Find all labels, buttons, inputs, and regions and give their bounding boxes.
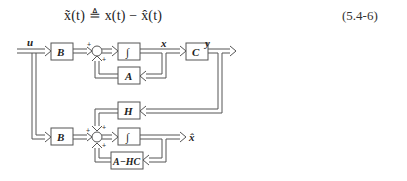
observer-b-label: B [56, 131, 64, 143]
plant-sum-sign-feedback: + [102, 56, 106, 63]
observer-h-label: H [123, 105, 133, 117]
observer-sum-sign-feedback: + [102, 142, 106, 149]
plant-a-label: A [124, 70, 132, 82]
signal-xhat-label: x̂ [188, 131, 195, 143]
input-u-line [17, 46, 51, 56]
observer-a-minus-hc-label: A−HC [112, 156, 141, 167]
input-u-branch [32, 53, 51, 142]
plant-b-label: B [56, 46, 64, 58]
plant-sum-sign-input: + [87, 41, 91, 48]
signal-y-label: y [203, 37, 210, 49]
observer-sum-sign-h: + [102, 124, 106, 131]
observer-summing-junction [92, 132, 102, 142]
signal-x-label: x [160, 37, 167, 49]
observer-block-diagram: B ∫ A C H B ∫ A−HC u x y x̂ + + + + + [0, 0, 407, 181]
signal-u-label: u [27, 36, 33, 48]
plant-c-label: C [192, 46, 200, 58]
plant-summing-junction [92, 46, 102, 56]
observer-sum-sign-input: + [86, 127, 90, 134]
